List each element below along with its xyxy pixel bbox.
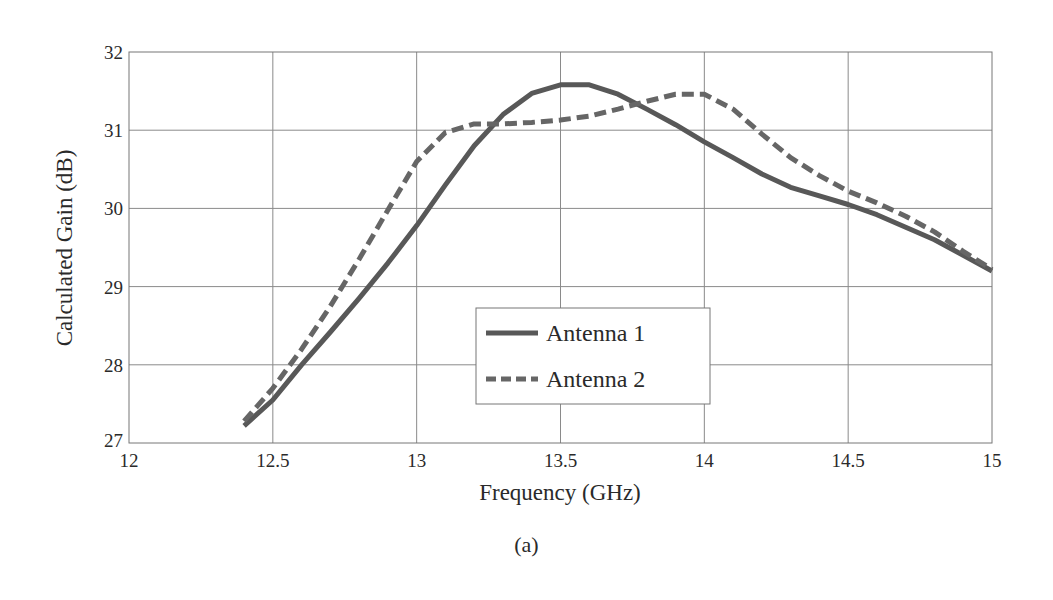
x-tick-label: 14 — [695, 450, 715, 471]
x-tick-label: 15 — [983, 450, 1002, 471]
legend-label-antenna-1: Antenna 1 — [546, 320, 645, 346]
axis-ticks: 1212.51313.51414.515272829303132 — [104, 42, 1002, 471]
figure-caption: (a) — [0, 532, 1053, 558]
x-axis-title: Frequency (GHz) — [479, 480, 641, 505]
legend-label-antenna-2: Antenna 2 — [546, 366, 645, 392]
y-tick-label: 29 — [104, 277, 123, 298]
y-tick-label: 28 — [104, 355, 123, 376]
x-tick-label: 12 — [120, 450, 139, 471]
y-tick-label: 31 — [104, 120, 123, 141]
x-tick-label: 12.5 — [256, 450, 289, 471]
y-axis-title: Calculated Gain (dB) — [52, 150, 77, 347]
y-tick-label: 27 — [104, 430, 123, 451]
x-tick-label: 14.5 — [832, 450, 865, 471]
y-tick-label: 32 — [104, 42, 123, 63]
legend: Antenna 1 Antenna 2 — [476, 308, 710, 404]
gain-chart: 1212.51313.51414.515272829303132 Antenna… — [0, 0, 1053, 600]
x-tick-label: 13.5 — [544, 450, 577, 471]
x-tick-label: 13 — [407, 450, 426, 471]
y-tick-label: 30 — [104, 198, 123, 219]
